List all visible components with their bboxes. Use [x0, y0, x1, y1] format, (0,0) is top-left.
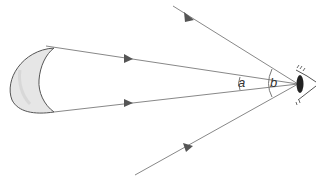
lower-outer-ray: [135, 84, 298, 175]
moon-bottom-ray: [54, 84, 298, 112]
eye-icon: [296, 65, 316, 105]
moon-crescent-icon: [10, 48, 54, 113]
angle-b-label: b: [270, 76, 277, 89]
moon-top-ray: [46, 46, 298, 84]
arrow-icon: [183, 143, 193, 152]
angle-a-label: a: [238, 76, 245, 89]
arrow-icon: [184, 12, 194, 22]
upper-outer-ray: [173, 6, 298, 84]
moon-eye-diagram: [0, 0, 325, 183]
arrow-icon: [124, 99, 133, 107]
arrow-icon: [124, 54, 133, 63]
